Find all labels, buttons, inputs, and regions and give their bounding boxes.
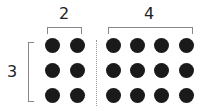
- dot: [154, 88, 169, 103]
- right-columns-label: 4: [144, 6, 154, 22]
- dot: [130, 88, 145, 103]
- dot: [70, 88, 85, 103]
- right-columns-bracket: [108, 27, 193, 34]
- group-divider: [96, 40, 97, 106]
- dot: [154, 38, 169, 53]
- dot: [70, 63, 85, 78]
- dot: [130, 63, 145, 78]
- dot: [179, 88, 194, 103]
- dot: [106, 38, 121, 53]
- left-columns-label: 2: [59, 6, 69, 22]
- dot: [154, 63, 169, 78]
- dot: [70, 38, 85, 53]
- rows-label: 3: [7, 64, 17, 80]
- dot: [45, 88, 60, 103]
- dot: [106, 63, 121, 78]
- dot: [106, 88, 121, 103]
- dot: [130, 38, 145, 53]
- left-columns-bracket: [47, 27, 82, 34]
- dot: [45, 38, 60, 53]
- dot: [179, 38, 194, 53]
- rows-bracket: [28, 42, 34, 102]
- dot: [45, 63, 60, 78]
- dot: [179, 63, 194, 78]
